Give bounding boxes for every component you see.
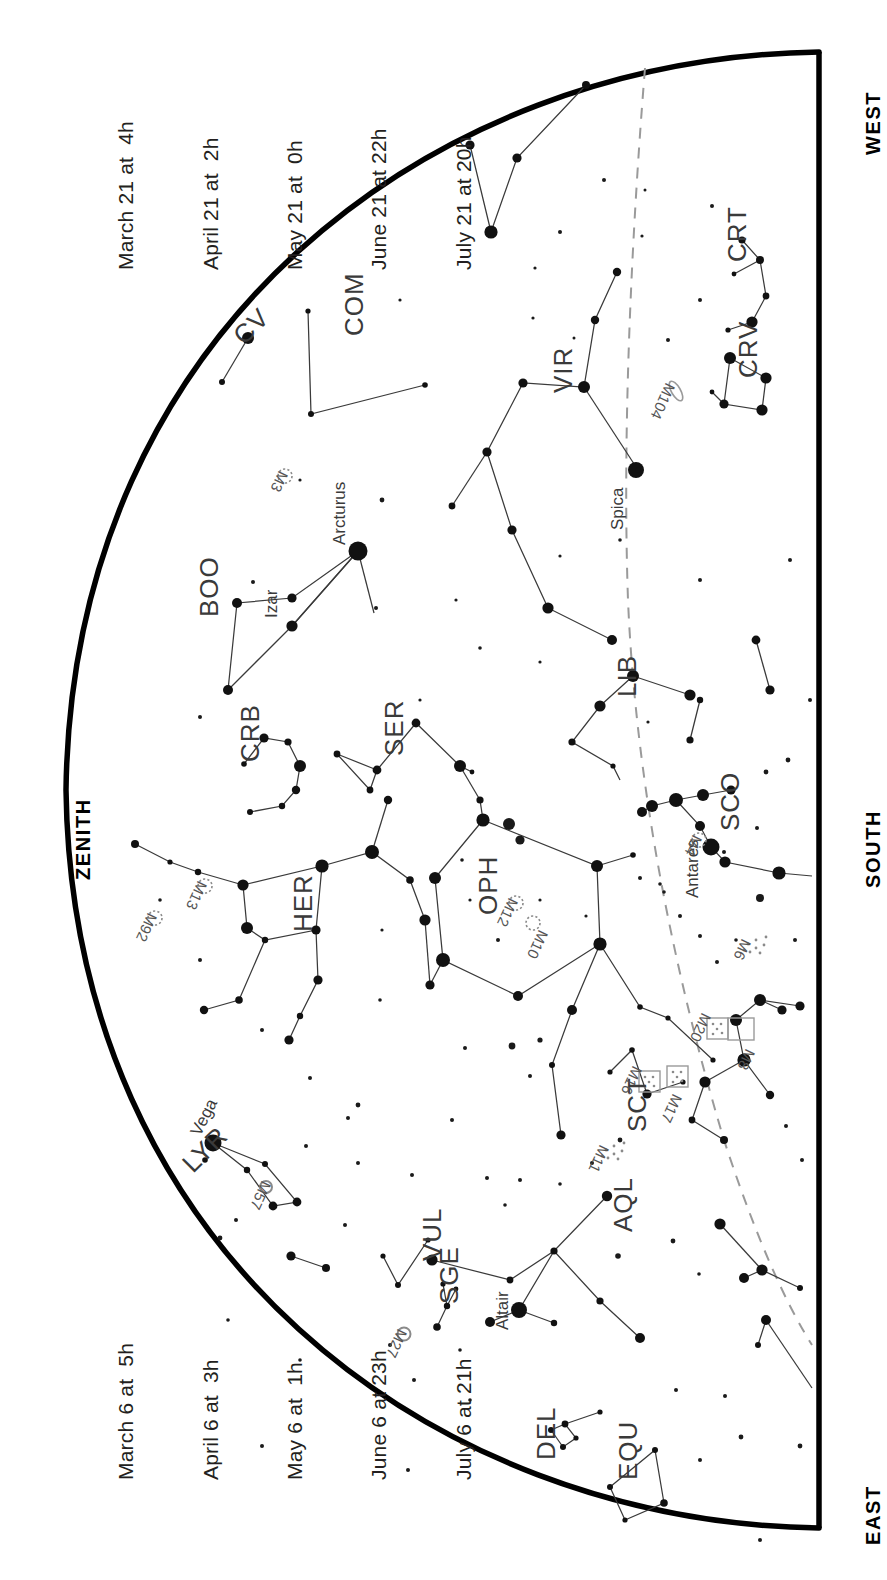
label-her: HER [288,874,318,932]
globular-clusters [148,469,706,930]
label-ser: SER [379,700,409,756]
star-altair [511,1302,527,1318]
map-labels: CV COM VIR CRT CRV BOO CRB SER LIB SCO O… [133,206,763,1480]
label-m104: M104 [647,381,678,422]
ecliptic-line [626,68,812,1345]
label-m8: M8 [734,1047,758,1073]
star-arcturus [349,542,368,561]
legend-top-line-2: April 21 at 2h [197,121,225,270]
label-sco: SCO [715,772,745,831]
label-crt: CRT [722,206,752,262]
label-equ: EQU [613,1421,643,1480]
label-crv: CRV [733,321,763,378]
legend-top-line-3: May 21 at 0h [281,121,309,270]
legend-top-dates: March 21 at 4h April 21 at 2h May 21 at … [56,121,506,270]
label-lib: LIB [612,655,642,697]
label-m11: M11 [585,1143,612,1176]
label-m13: M13 [183,879,211,913]
label-altair: Altair [493,1291,512,1330]
legend-bottom-line-4: June 6 at 23h [365,1343,393,1480]
label-spica: Spica [608,487,627,530]
cardinal-south: SOUTH [862,810,885,888]
legend-bottom-line-5: July 6 at 21h [450,1343,478,1480]
star-field [131,81,812,1542]
label-m6: M6 [730,937,754,963]
label-sge: SGE [434,1246,464,1304]
label-arcturus: Arcturus [330,482,349,545]
legend-bottom-line-2: April 6 at 3h [197,1343,225,1480]
label-vir: VIR [548,347,578,393]
label-oph: OPH [473,856,503,915]
label-m3: M3 [267,469,291,495]
label-com: COM [339,272,369,336]
constellation-lines [135,85,812,1520]
legend-bottom-dates: March 6 at 5h April 6 at 3h May 6 at 1h … [56,1343,506,1480]
label-cv: CV [227,302,275,350]
label-del: DEL [531,1406,561,1460]
label-aql: AQL [608,1177,638,1232]
cardinal-west: WEST [862,91,885,155]
label-m92: M92 [133,911,161,945]
label-m17: M17 [658,1092,686,1126]
label-crb: CRB [235,704,265,762]
legend-bottom-line-3: May 6 at 1h [281,1343,309,1480]
legend-top-line-4: June 21 at 22h [365,121,393,270]
star-chart: CV COM VIR CRT CRV BOO CRB SER LIB SCO O… [0,0,887,1580]
cardinal-east: EAST [862,1485,885,1545]
legend-top-line-5: July 21 at 20h [450,121,478,270]
label-boo: BOO [194,556,224,617]
label-izar: Izar [262,589,281,618]
label-m10: M10 [524,928,552,962]
legend-bottom-line-1: March 6 at 5h [112,1343,140,1480]
cardinal-zenith: ZENITH [72,798,95,880]
legend-top-line-1: March 21 at 4h [112,121,140,270]
